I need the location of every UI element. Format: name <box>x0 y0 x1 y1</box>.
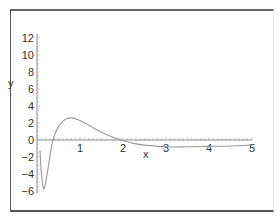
y-tick-label: 12 <box>22 32 34 44</box>
y-tick-label: −4 <box>21 168 34 180</box>
x-tick-label: 5 <box>249 142 255 154</box>
x-tick-label: 1 <box>77 142 83 154</box>
y-axis-ticks: −6−4−2024681012 <box>21 32 34 197</box>
y-tick-label: 2 <box>28 117 34 129</box>
y-tick-label: −2 <box>21 151 34 163</box>
y-axis-label: y <box>8 77 14 89</box>
y-tick-label: 8 <box>28 66 34 78</box>
y-tick-label: 10 <box>22 49 34 61</box>
y-tick-label: 6 <box>28 83 34 95</box>
y-tick-label: 0 <box>28 134 34 146</box>
y-tick-label: 4 <box>28 100 34 112</box>
x-axis-label: x <box>143 148 149 160</box>
y-tick-label: −6 <box>21 185 34 197</box>
x-tick-label: 4 <box>206 142 212 154</box>
x-axis-ticks: 12345 <box>77 142 255 154</box>
axes <box>37 34 252 193</box>
x-tick-label: 3 <box>163 142 169 154</box>
plot-area: −6−4−2024681012 12345 x y <box>0 0 278 219</box>
x-tick-label: 2 <box>120 142 126 154</box>
